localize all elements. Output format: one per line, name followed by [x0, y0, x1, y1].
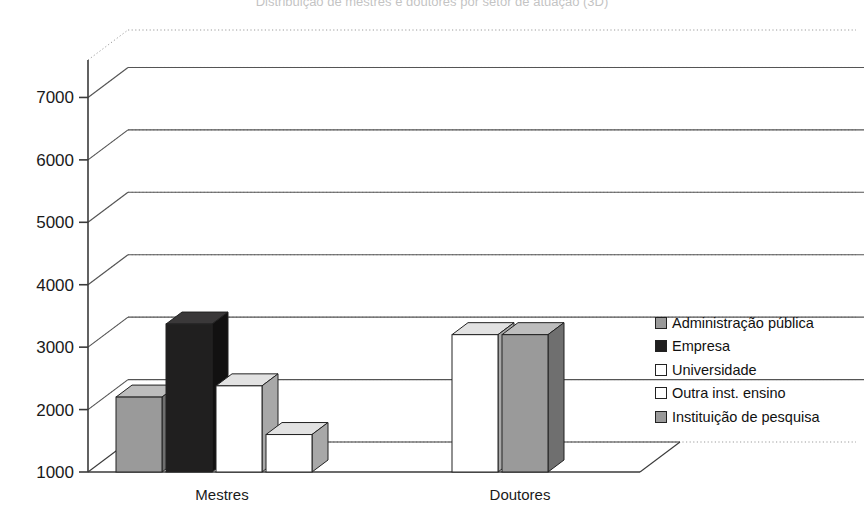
- legend-item: Instituição de pesquisa: [655, 405, 860, 429]
- legend-swatch-icon: [655, 411, 667, 423]
- legend-label: Empresa: [672, 339, 730, 354]
- legend-item: Outra inst. ensino: [655, 382, 860, 406]
- legend-label: Universidade: [672, 363, 757, 378]
- bar-side-face: [548, 323, 564, 472]
- legend-label: Administração pública: [672, 316, 814, 331]
- floor-right-edge: [640, 442, 680, 472]
- x-tick-label: Mestres: [195, 486, 248, 503]
- gridline-riser: [88, 255, 128, 285]
- bar-front-face: [452, 335, 498, 472]
- legend-item: Administração pública: [655, 311, 860, 335]
- chart-legend: Administração públicaEmpresaUniversidade…: [655, 311, 860, 429]
- y-tick-label: 5000: [36, 213, 74, 232]
- y-tick-label: 1000: [36, 463, 74, 482]
- bar-doutores-2: [502, 323, 564, 472]
- y-tick-label: 4000: [36, 276, 74, 295]
- y-tick-label: 3000: [36, 338, 74, 357]
- bar-front-face: [166, 324, 212, 472]
- legend-item: Universidade: [655, 358, 860, 382]
- legend-swatch-icon: [655, 387, 667, 399]
- gridline-depth-edge: [88, 30, 128, 60]
- bar-front-face: [266, 435, 312, 472]
- y-tick-label: 6000: [36, 151, 74, 170]
- legend-item: Empresa: [655, 335, 860, 359]
- legend-swatch-icon: [655, 317, 667, 329]
- bar-front-face: [216, 386, 262, 472]
- gridline-riser: [88, 192, 128, 222]
- legend-label: Outra inst. ensino: [672, 386, 786, 401]
- legend-swatch-icon: [655, 364, 667, 376]
- chart-root: 1000200030004000500060007000MestresDouto…: [0, 0, 864, 527]
- bar-chart-3d: 1000200030004000500060007000MestresDouto…: [0, 0, 864, 527]
- x-tick-label: Doutores: [490, 486, 551, 503]
- y-tick-label: 2000: [36, 401, 74, 420]
- y-tick-label: 7000: [36, 88, 74, 107]
- legend-swatch-icon: [655, 340, 667, 352]
- chart-title: Distribuição de mestres e doutores por s…: [256, 0, 609, 9]
- bar-front-face: [116, 397, 162, 472]
- legend-label: Instituição de pesquisa: [672, 410, 820, 425]
- bar-mestres-4: [266, 423, 328, 472]
- gridline-riser: [88, 130, 128, 160]
- gridline-riser: [88, 67, 128, 97]
- gridline-riser: [88, 317, 128, 347]
- bar-front-face: [502, 335, 548, 472]
